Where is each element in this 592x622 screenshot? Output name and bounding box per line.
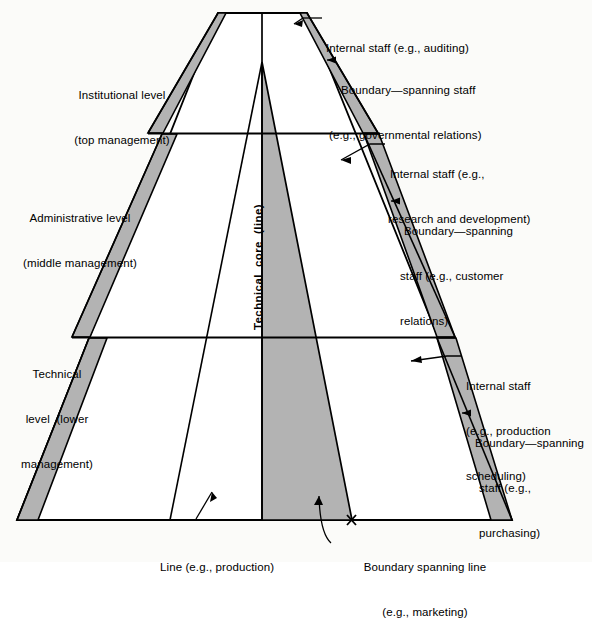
callout-line-production: Line (e.g., production)	[160, 530, 340, 605]
callout-boundary-spanning-customer: Boundary—spanning staff (e.g., customer …	[404, 194, 592, 359]
technical-core-label: Technical core (line)	[252, 204, 264, 330]
callout-boundary-spanning-customer-line1: Boundary—spanning	[404, 224, 592, 239]
level-label-technical-line1: Technical	[2, 367, 112, 382]
callout-boundary-spanning-governmental-line1: Boundary—spanning staff	[341, 83, 581, 98]
level-label-administrative-line1: Administrative level	[6, 211, 154, 226]
callout-boundary-spanning-purchasing-line2: staff (e.g.,	[479, 481, 592, 496]
callout-internal-staff-production-scheduling-line1: Internal staff	[466, 379, 592, 394]
callout-internal-staff-rnd-line1: Internal staff (e.g.,	[390, 167, 590, 182]
level-label-institutional-line2: (top management)	[52, 133, 192, 148]
callout-boundary-spanning-line-marketing-line2: (e.g., marketing)	[330, 605, 520, 620]
callout-line-production-line1: Line (e.g., production)	[160, 560, 340, 575]
callout-boundary-spanning-purchasing-line1: Boundary—spanning	[475, 436, 592, 451]
callout-boundary-spanning-line-marketing: Boundary spanning line (e.g., marketing)	[330, 530, 520, 622]
callout-boundary-spanning-customer-line3: relations)	[400, 314, 592, 329]
level-label-technical: Technical level (lower management)	[2, 337, 112, 502]
level-label-administrative-line2: (middle management)	[6, 256, 154, 271]
level-label-administrative: Administrative level (middle management)	[6, 181, 154, 301]
level-label-institutional-line1: Institutional level	[52, 88, 192, 103]
level-label-technical-line2: level (lower	[2, 412, 112, 427]
callout-boundary-spanning-customer-line2: staff (e.g., customer	[400, 269, 592, 284]
callout-boundary-spanning-line-marketing-line1: Boundary spanning line	[330, 560, 520, 575]
level-label-institutional: Institutional level (top management)	[52, 58, 192, 178]
level-label-technical-line3: management)	[2, 457, 112, 472]
